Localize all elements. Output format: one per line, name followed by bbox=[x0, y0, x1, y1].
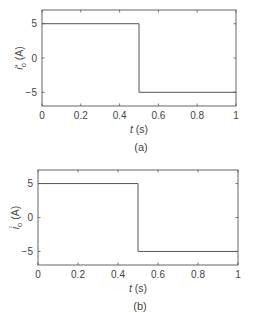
x-tick-label: 0.4 bbox=[111, 269, 125, 280]
y-axis-label: io* (A) bbox=[13, 46, 28, 69]
y-axis-label: i̇o (A) bbox=[9, 206, 24, 229]
x-tick-label: 0.8 bbox=[190, 110, 204, 121]
x-tick-label: 1 bbox=[235, 269, 241, 280]
y-tick-label: 0 bbox=[31, 53, 37, 64]
y-tick-label: 5 bbox=[31, 18, 37, 29]
y-tick-label: 0 bbox=[27, 212, 33, 223]
y-tick-label: −5 bbox=[22, 246, 34, 257]
x-tick-label: 0.2 bbox=[74, 110, 88, 121]
x-axis-label: t (s) bbox=[129, 282, 147, 294]
panel-caption: (b) bbox=[133, 300, 146, 312]
data-series-line bbox=[38, 184, 238, 252]
y-tick-label: 5 bbox=[27, 178, 33, 189]
x-tick-label: 1 bbox=[233, 110, 239, 121]
x-tick-label: 0.4 bbox=[113, 110, 127, 121]
chart-panel-b: 00.20.40.60.8150−5t (s)i̇o (A)(b) bbox=[0, 160, 255, 313]
chart-b-svg: 00.20.40.60.8150−5t (s)i̇o (A)(b) bbox=[0, 160, 255, 313]
x-tick-label: 0 bbox=[35, 269, 41, 280]
x-tick-label: 0.8 bbox=[191, 269, 205, 280]
y-tick-label: −5 bbox=[26, 87, 38, 98]
chart-a-svg: 00.20.40.60.8150−5t (s)io* (A)(a) bbox=[0, 0, 255, 160]
x-axis-label: t (s) bbox=[130, 123, 148, 135]
x-tick-label: 0.6 bbox=[151, 269, 165, 280]
x-tick-label: 0.6 bbox=[151, 110, 165, 121]
x-tick-label: 0.2 bbox=[71, 269, 85, 280]
x-tick-label: 0 bbox=[39, 110, 45, 121]
chart-panel-a: 00.20.40.60.8150−5t (s)io* (A)(a) bbox=[0, 0, 255, 160]
data-series-line bbox=[42, 24, 236, 93]
panel-caption: (a) bbox=[134, 141, 147, 153]
